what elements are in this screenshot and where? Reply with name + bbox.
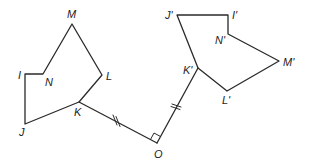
- label-J: J: [18, 126, 25, 138]
- label-I: I: [18, 69, 21, 81]
- label-M-prime: M': [283, 56, 295, 68]
- label-L: L: [106, 70, 112, 82]
- label-J-prime: J': [164, 9, 174, 21]
- label-I-prime: I': [232, 9, 238, 21]
- label-N: N: [45, 76, 53, 88]
- polygon-original: [25, 24, 102, 124]
- rotation-diagram: M L K J I N J' I' N' M' L' K' O: [0, 0, 311, 168]
- diagram-svg: M L K J I N J' I' N' M' L' K' O: [0, 0, 311, 168]
- tick-marks-OK-prime: [171, 104, 181, 110]
- label-K: K: [74, 106, 82, 118]
- label-K-prime: K': [183, 64, 193, 76]
- label-O: O: [154, 148, 163, 160]
- label-M: M: [67, 8, 77, 20]
- label-L-prime: L': [222, 94, 231, 106]
- label-N-prime: N': [215, 34, 226, 46]
